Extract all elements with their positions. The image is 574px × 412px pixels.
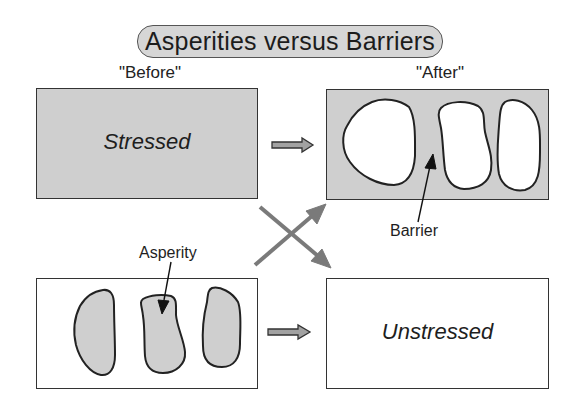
diagram-canvas: Asperities versus Barriers "Before" "Aft… [0, 0, 574, 412]
arrow-right-icon-top [272, 138, 313, 152]
unstressed-box: Unstressed [326, 278, 549, 389]
cross-arrow-down-right-icon [260, 207, 331, 268]
before-unstressed-box-with-asperities [36, 278, 258, 389]
unstressed-label: Unstressed [327, 319, 548, 345]
arrow-right-icon-bottom [268, 325, 310, 339]
diagram-title: Asperities versus Barriers [137, 25, 443, 58]
after-stressed-box-with-barriers [326, 89, 549, 200]
stressed-label: Stressed [37, 129, 257, 155]
barrier-label: Barrier [390, 222, 438, 240]
asperity-label: Asperity [139, 244, 197, 262]
before-label: "Before" [100, 63, 200, 83]
after-label: "After" [390, 63, 490, 83]
stressed-box: Stressed [36, 88, 258, 199]
cross-arrow-up-right-icon [255, 204, 326, 265]
